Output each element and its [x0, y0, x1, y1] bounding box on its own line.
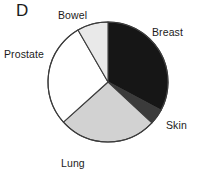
pie-label-skin: Skin	[166, 120, 187, 131]
pie-label-prostate: Prostate	[4, 49, 44, 60]
pie-label-bowel: Bowel	[58, 10, 87, 21]
pie-label-lung: Lung	[61, 158, 85, 169]
pie-chart-figure: D Bowel Breast Skin Lung Prostate	[0, 0, 198, 175]
pie-label-breast: Breast	[152, 27, 183, 38]
pie-slices-group	[48, 22, 168, 142]
